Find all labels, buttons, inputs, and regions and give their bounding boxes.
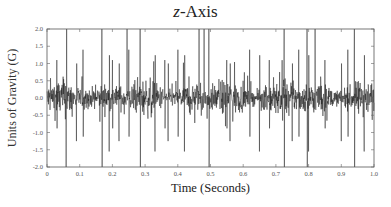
x-tick-label: 1.0 (370, 170, 378, 177)
y-tick-label: 0.0 (35, 94, 43, 101)
x-tick-label: 0.1 (76, 170, 84, 177)
x-tick-label: 0.9 (337, 170, 345, 177)
y-tick-label: 0.5 (35, 77, 43, 84)
signal-line (47, 29, 374, 167)
y-tick-label: -1.0 (33, 129, 43, 136)
y-tick-label: -0.5 (33, 111, 43, 118)
x-tick-label: 0.2 (108, 170, 116, 177)
x-tick-label: 0.7 (272, 170, 281, 177)
x-tick-label: 0.8 (305, 170, 313, 177)
y-tick-label: 2.0 (35, 25, 43, 32)
plot-area: 2.01.51.00.50.0-0.5-1.0-1.5-2.0 00.10.20… (0, 0, 391, 207)
y-tick-label: -1.5 (33, 146, 43, 153)
x-tick-label: 0.5 (206, 170, 214, 177)
y-tick-label: 1.5 (35, 42, 43, 49)
x-tick-label: 0.6 (239, 170, 248, 177)
x-tick-label: 0.3 (141, 170, 149, 177)
x-tick-label: 0 (45, 170, 48, 177)
y-tick-label: -2.0 (33, 163, 43, 170)
y-tick-label: 1.0 (35, 60, 43, 67)
x-tick-label: 0.4 (174, 170, 183, 177)
signal-trace (47, 29, 374, 167)
